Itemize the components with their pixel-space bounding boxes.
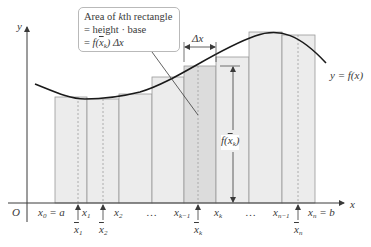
partition-label-xn-1: xn−1 <box>273 207 290 222</box>
rectangle-7 <box>249 32 282 203</box>
rectangle-k <box>184 66 216 203</box>
partition-label-xn: xn = b <box>308 207 335 222</box>
partition-label-x1: x1 <box>82 207 90 222</box>
sample-label-x1bar: x1 <box>74 224 82 239</box>
partition-ellipsis-2: … <box>245 207 256 218</box>
y-axis-label: y <box>17 21 22 32</box>
rectangle-4 <box>152 77 184 203</box>
callout-line-2: = height · base <box>84 23 174 36</box>
sample-label-xnbar: xn <box>294 224 302 239</box>
curve-label: y = f(x) <box>330 70 363 81</box>
rectangle-3 <box>119 94 152 203</box>
height-label: f(xk) <box>221 135 239 150</box>
delta-x-label: Δx <box>192 33 203 44</box>
partition-label-xk: xk <box>214 207 222 222</box>
x-axis-label: x <box>350 199 355 210</box>
partition-label-xk-1: xk−1 <box>174 207 190 222</box>
area-callout: Area of kth rectangle = height · base = … <box>78 7 180 52</box>
origin-label: O <box>12 207 20 218</box>
callout-line-3: = f(xk) Δx <box>84 36 174 53</box>
partition-label-x2: x2 <box>114 207 122 222</box>
partition-ellipsis-1: … <box>146 207 157 218</box>
sample-label-xkbar: xk <box>194 224 202 239</box>
rectangle-6 <box>216 57 249 203</box>
rectangle-n <box>282 35 315 203</box>
partition-label-x0: x0 = a <box>38 207 65 222</box>
rectangle-1 <box>55 97 87 203</box>
callout-line-1: Area of kth rectangle <box>84 10 174 23</box>
rectangles <box>55 32 315 203</box>
sample-label-x2bar: x2 <box>99 224 107 239</box>
